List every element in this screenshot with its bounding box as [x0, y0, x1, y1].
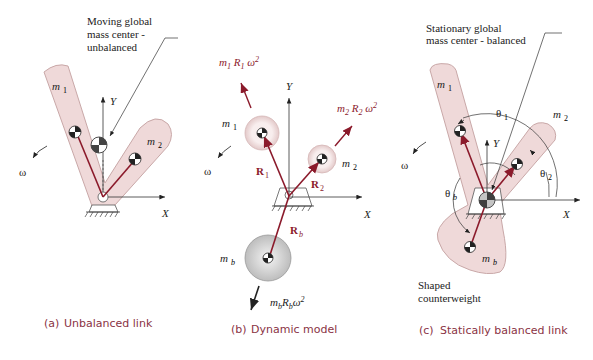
force-arrow-m1-b	[241, 83, 251, 108]
global-mass-center-a	[91, 137, 107, 153]
label-m1-sub-c: 1	[448, 84, 452, 93]
label-theta1-c: θ	[496, 107, 501, 119]
label-r1-sub-b: 1	[265, 171, 269, 180]
label-m2-b: m	[342, 157, 350, 169]
mass-center-m2-c	[512, 159, 523, 170]
caption-prefix-b: (b)	[231, 323, 247, 336]
omega-arrow-a	[33, 146, 47, 158]
balancing-diagram: Moving global mass center - unbalanced m…	[0, 0, 593, 360]
label-x-b: X	[363, 208, 372, 220]
label-thetab-sub-c: b	[453, 193, 457, 202]
label-r2-b: R	[311, 178, 320, 190]
label-m2-sub-c: 2	[564, 114, 568, 123]
label-theta2-c: θ	[540, 167, 545, 179]
label-rb-b: R	[290, 224, 299, 236]
label-mb-b: m	[220, 252, 228, 264]
callout-text-a-3: unbalanced	[87, 41, 138, 53]
link-body-c	[430, 64, 556, 274]
label-y-a: Y	[110, 95, 118, 107]
mass-center-m1-a	[69, 126, 81, 138]
callout-text-a-2: mass center -	[87, 28, 145, 40]
label-m1-a: m	[52, 80, 60, 92]
label-mb-c: m	[482, 252, 490, 264]
label-x-a: X	[161, 207, 170, 219]
label-r2-sub-b: 2	[320, 184, 324, 193]
label-mb-sub-c: b	[493, 258, 497, 267]
label-m1-c: m	[437, 78, 445, 90]
label-m2-a: m	[147, 135, 155, 147]
mass-center-m2-a	[129, 153, 141, 165]
force-label-mb-b: mbRbω2	[270, 295, 304, 311]
label-m1-sub-b: 1	[233, 123, 237, 132]
ground-support-a	[85, 205, 120, 217]
mass-center-m2-b	[317, 154, 327, 164]
label-omega-a: ω	[19, 166, 26, 178]
mass-center-m1-b	[257, 128, 267, 138]
label-mb-sub-b: b	[231, 258, 235, 267]
label-m2-c: m	[553, 108, 561, 120]
label-theta1-sub-c: 1	[504, 113, 508, 122]
label-m2-sub-a: 2	[158, 141, 162, 150]
callout-text-c-1: Stationary global	[426, 22, 501, 34]
panel-c-statically-balanced: Stationary global mass center - balanced…	[401, 22, 580, 337]
label-y-b: Y	[286, 80, 294, 92]
caption-prefix-c: (c)	[419, 324, 434, 337]
force-label-m1-b: m1 R1 ω2	[219, 55, 259, 71]
mass-center-m1-c	[455, 126, 466, 137]
omega-arrow-b	[218, 146, 231, 158]
caption-prefix-a: (a)	[44, 317, 59, 330]
mass-center-mb-b	[263, 253, 273, 263]
note-text-c-1: Shaped	[418, 279, 451, 291]
vector-r1-b	[264, 136, 289, 196]
label-x-c: X	[562, 208, 571, 220]
callout-text-a-1: Moving global	[87, 15, 152, 27]
omega-arrow-c	[413, 142, 426, 154]
caption-a: Unbalanced link	[64, 317, 153, 330]
label-m2-sub-b: 2	[353, 163, 357, 172]
force-arrow-m2-b	[335, 126, 352, 146]
label-omega-c: ω	[401, 159, 408, 171]
global-mass-center-c	[479, 192, 495, 208]
note-text-c-2: counterweight	[418, 292, 481, 304]
mass-center-mb-c	[465, 242, 476, 253]
panel-b-dynamic-model: m1 R1 ω2 m2 R2 ω2 mbRbω2 m 1 m 2 m b R 1…	[204, 55, 377, 336]
callout-text-c-2: mass center - balanced	[426, 34, 526, 46]
label-theta2-sub-c: 2	[548, 173, 552, 182]
caption-c: Statically balanced link	[440, 324, 568, 337]
label-rb-sub-b: b	[299, 230, 303, 239]
panel-a-unbalanced: Moving global mass center - unbalanced m…	[19, 15, 178, 330]
force-arrow-mb-b	[251, 286, 259, 310]
label-y-c: Y	[493, 137, 501, 149]
label-m1-sub-a: 1	[63, 86, 67, 95]
caption-b: Dynamic model	[251, 323, 337, 336]
label-omega-b: ω	[204, 165, 211, 177]
force-label-m2-b: m2 R2 ω2	[337, 101, 377, 117]
label-m1-b: m	[222, 117, 230, 129]
label-r1-b: R	[256, 165, 265, 177]
label-thetab-c: θ	[445, 187, 450, 199]
